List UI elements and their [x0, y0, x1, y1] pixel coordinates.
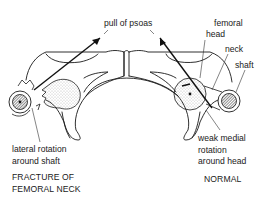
femoral-label: femoral	[214, 18, 243, 28]
left-femoral-head	[42, 79, 80, 109]
neck-label: neck	[225, 44, 243, 54]
head-label: head	[206, 29, 225, 39]
shaft-label: shaft	[235, 60, 254, 70]
normal-caption: NORMAL	[204, 174, 241, 185]
weak-medial-label: weak medial	[198, 133, 246, 143]
rotation-label: rotation	[198, 145, 227, 155]
around-head-label: around head	[198, 156, 246, 166]
around-shaft-label: around shaft	[12, 156, 60, 166]
fracture-caption-line1: FRACTURE OF	[12, 172, 74, 183]
lateral-rotation-label: lateral rotation	[12, 144, 66, 154]
fracture-caption-line2: FEMORAL NECK	[12, 184, 81, 195]
pull-of-psoas-label: pull of psoas	[104, 18, 152, 28]
